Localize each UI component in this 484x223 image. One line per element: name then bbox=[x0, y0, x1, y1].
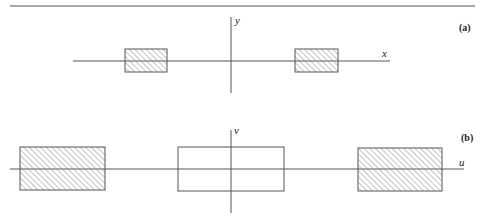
panel-b-label: (b) bbox=[461, 132, 473, 144]
panel-b-hatched-rect-right bbox=[358, 148, 442, 191]
panel-a-hatched-rect-right bbox=[295, 49, 338, 72]
panel-a: y x (a) bbox=[73, 14, 471, 93]
panel-b-v-label: v bbox=[234, 124, 239, 136]
panel-b: v u (b) bbox=[10, 124, 473, 213]
panel-b-hatched-rect-left bbox=[20, 147, 105, 190]
panel-a-y-label: y bbox=[234, 14, 240, 26]
panel-b-u-label: u bbox=[459, 156, 465, 168]
figure-canvas: y x (a) v u (b) bbox=[0, 0, 484, 223]
panel-a-label: (a) bbox=[459, 22, 471, 34]
panel-a-x-label: x bbox=[381, 47, 387, 59]
panel-a-hatched-rect-left bbox=[125, 49, 167, 72]
